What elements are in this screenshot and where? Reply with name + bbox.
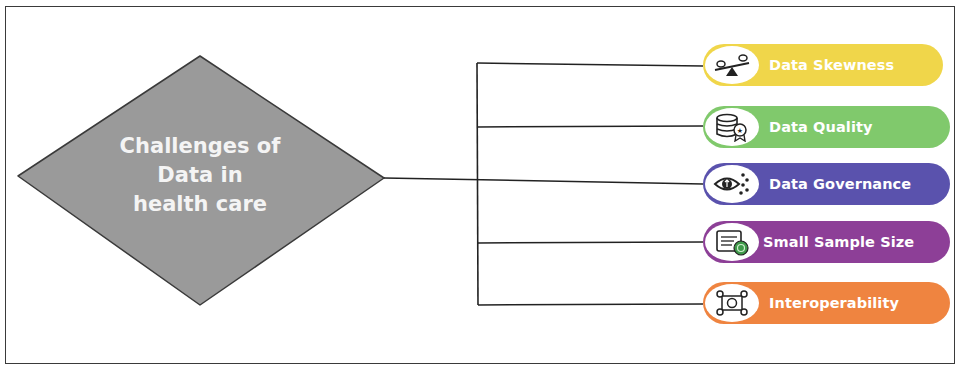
branch-line-4 <box>478 242 703 243</box>
branch-node-data-governance: Data Governance <box>703 163 950 205</box>
branch-line-5 <box>478 304 703 305</box>
seesaw-balance-icon <box>705 46 759 84</box>
branch-label: Interoperability <box>769 295 899 311</box>
branch-label: Data Skewness <box>769 57 894 73</box>
center-node-line-1: Challenges of <box>80 132 320 161</box>
branch-label: Small Sample Size <box>763 234 914 250</box>
center-node-line-2: Data in <box>80 161 320 190</box>
main-connector <box>384 178 703 184</box>
vertical-trunk <box>477 63 478 305</box>
branch-node-data-quality: ★ Data Quality <box>703 106 950 148</box>
branch-label: Data Quality <box>769 119 873 135</box>
branch-label: Data Governance <box>769 176 911 192</box>
eye-shield-icon <box>705 165 759 203</box>
document-shield-icon <box>705 223 759 261</box>
branch-node-data-skewness: Data Skewness <box>703 44 943 86</box>
svg-text:★: ★ <box>737 127 743 135</box>
branch-line-2 <box>477 126 703 127</box>
branch-line-1 <box>477 63 703 66</box>
connected-nodes-icon <box>705 284 759 322</box>
branch-node-interoperability: Interoperability <box>703 282 950 324</box>
center-node-label: Challenges of Data in health care <box>80 132 320 219</box>
branch-node-small-sample-size: Small Sample Size <box>703 221 950 263</box>
center-node-line-3: health care <box>80 190 320 219</box>
database-award-icon: ★ <box>705 108 759 146</box>
